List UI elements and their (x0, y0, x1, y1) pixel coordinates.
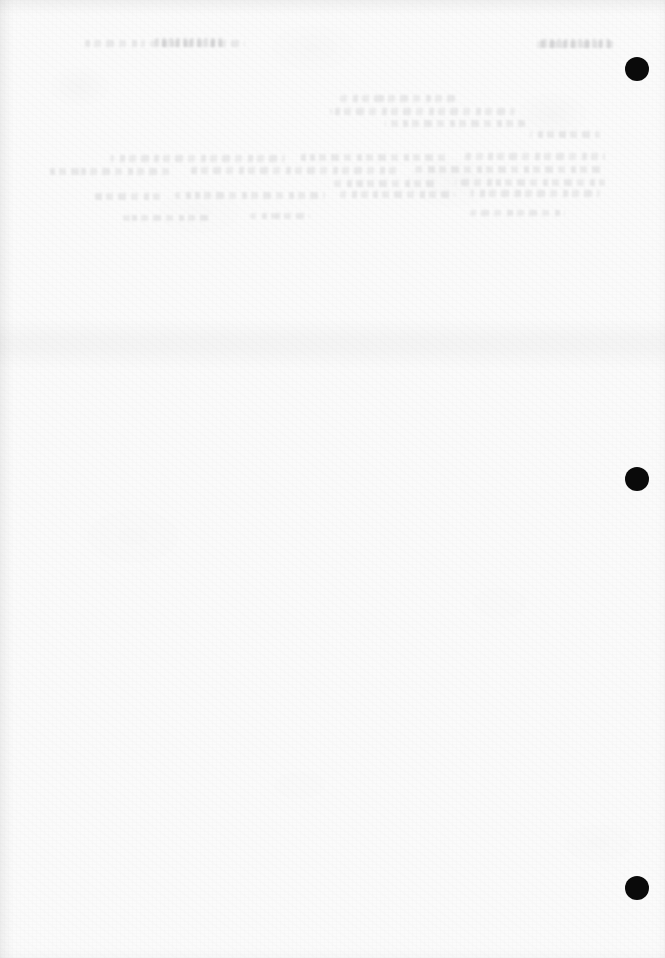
punch-hole-top (625, 57, 649, 81)
scan-edge-shadow-bottom (0, 948, 665, 958)
punch-hole-bottom (625, 876, 649, 900)
scan-edge-shadow-top (0, 0, 665, 16)
paper-grain-texture (0, 0, 665, 958)
scanned-page (0, 0, 665, 958)
fold-shading-band (0, 318, 665, 370)
punch-hole-middle (625, 467, 649, 491)
scan-edge-shadow-left (0, 0, 14, 958)
scan-edge-shadow-right (657, 0, 665, 958)
